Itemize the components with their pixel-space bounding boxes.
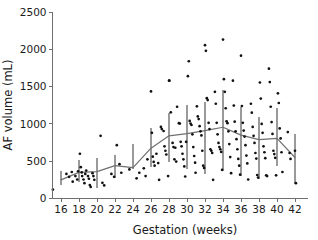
data-point xyxy=(236,148,239,151)
data-point xyxy=(162,130,165,133)
data-point xyxy=(175,160,178,163)
data-point xyxy=(217,142,220,145)
trend-line-group xyxy=(61,127,295,180)
data-point xyxy=(294,149,297,152)
data-point xyxy=(182,158,185,161)
tick-label-group: 0500100015002000250016182022242628303234… xyxy=(20,6,302,215)
data-point xyxy=(93,179,96,182)
data-point xyxy=(165,153,168,156)
data-point xyxy=(214,102,217,105)
data-point xyxy=(241,121,244,124)
x-tick-label: 42 xyxy=(288,203,301,215)
data-point xyxy=(243,135,246,138)
data-point xyxy=(197,118,200,121)
data-point xyxy=(226,122,229,125)
data-point xyxy=(84,173,87,176)
data-point xyxy=(269,105,272,108)
data-point xyxy=(219,148,222,151)
data-point xyxy=(101,181,104,184)
data-point xyxy=(110,173,113,176)
data-point xyxy=(201,149,204,152)
data-point xyxy=(289,158,292,161)
data-point xyxy=(268,67,271,70)
data-point xyxy=(199,130,202,133)
data-point xyxy=(167,175,170,178)
data-point xyxy=(77,170,80,173)
data-point xyxy=(207,121,210,124)
data-point xyxy=(183,165,186,168)
data-point xyxy=(151,132,154,135)
data-point xyxy=(215,121,218,124)
data-point xyxy=(247,178,250,181)
data-point xyxy=(79,152,82,155)
data-point xyxy=(204,44,207,47)
af-volume-scatter-figure: 0500100015002000250016182022242628303234… xyxy=(0,0,318,240)
data-point xyxy=(288,152,291,155)
data-point xyxy=(227,130,230,133)
x-tick-label: 28 xyxy=(162,203,175,215)
x-tick-label: 24 xyxy=(126,203,140,215)
data-point xyxy=(264,157,267,160)
data-point xyxy=(252,134,255,137)
data-point xyxy=(206,99,209,102)
axes-group xyxy=(53,12,309,199)
x-tick-label: 26 xyxy=(144,203,158,215)
data-point xyxy=(169,111,172,114)
data-point xyxy=(152,161,155,164)
data-point xyxy=(88,177,91,180)
data-point xyxy=(87,175,90,178)
chart-canvas: 0500100015002000250016182022242628303234… xyxy=(0,0,318,240)
data-point xyxy=(157,162,160,165)
data-point xyxy=(260,123,263,126)
data-point xyxy=(266,175,269,178)
data-point xyxy=(128,168,131,171)
data-point xyxy=(275,174,278,177)
data-point xyxy=(272,149,275,152)
data-point xyxy=(193,155,196,158)
data-point xyxy=(146,158,149,161)
data-point xyxy=(178,122,181,125)
data-point xyxy=(232,104,235,107)
data-point xyxy=(259,81,262,84)
data-point xyxy=(240,54,243,57)
data-point xyxy=(263,151,266,154)
data-point xyxy=(216,133,219,136)
data-point xyxy=(242,129,245,132)
x-tick-label: 32 xyxy=(198,203,211,215)
data-point xyxy=(234,130,237,133)
data-point xyxy=(250,111,253,114)
data-point xyxy=(76,178,79,181)
y-axis-title: AF volume (mL) xyxy=(1,60,15,151)
x-tick-label: 40 xyxy=(270,203,283,215)
data-point xyxy=(181,152,184,155)
data-point xyxy=(135,177,138,180)
data-point xyxy=(237,158,240,161)
data-point xyxy=(150,90,153,93)
data-point xyxy=(271,133,274,136)
data-point xyxy=(187,60,190,63)
data-point xyxy=(280,151,283,154)
data-point xyxy=(238,164,241,167)
data-point xyxy=(184,175,187,178)
data-point xyxy=(232,79,235,82)
data-point xyxy=(229,156,232,159)
data-point xyxy=(188,120,191,123)
data-point xyxy=(91,172,94,175)
y-tick-label: 2500 xyxy=(20,6,47,18)
data-point xyxy=(163,145,166,148)
data-point xyxy=(65,173,68,176)
data-point xyxy=(89,186,92,189)
data-point xyxy=(254,152,257,155)
x-tick-label: 38 xyxy=(252,203,265,215)
data-point xyxy=(277,92,280,95)
data-point xyxy=(168,79,171,82)
data-point xyxy=(120,171,123,174)
x-tick-label: 20 xyxy=(90,203,103,215)
data-point xyxy=(68,176,71,179)
data-point xyxy=(261,132,264,135)
data-point xyxy=(194,171,197,174)
data-point xyxy=(211,152,214,155)
x-tick-label: 18 xyxy=(72,203,85,215)
data-point xyxy=(190,124,193,127)
data-point xyxy=(203,167,206,170)
